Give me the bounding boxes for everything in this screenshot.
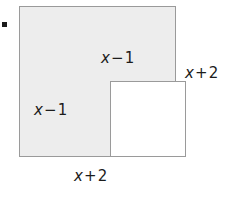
- inner-square: [110, 81, 186, 157]
- label-outer-right-operator: +: [194, 64, 209, 82]
- label-outer-right-variable: x: [185, 64, 194, 82]
- label-inner-left-operator: −: [43, 101, 58, 119]
- geometry-figure: x−1 x−1 x+2 x+2: [0, 0, 237, 197]
- label-outer-square-bottom: x+2: [74, 169, 108, 184]
- label-inner-top-number: 1: [125, 49, 135, 67]
- label-outer-bottom-operator: +: [83, 167, 98, 185]
- label-inner-left-variable: x: [34, 101, 43, 119]
- outer-square: [19, 6, 176, 157]
- label-inner-square-left: x−1: [34, 103, 68, 118]
- label-inner-square-top: x−1: [101, 51, 135, 66]
- label-inner-top-variable: x: [101, 49, 110, 67]
- item-marker-icon: [2, 22, 7, 27]
- label-inner-left-number: 1: [58, 101, 68, 119]
- label-outer-bottom-number: 2: [98, 167, 108, 185]
- label-outer-bottom-variable: x: [74, 167, 83, 185]
- label-outer-right-number: 2: [209, 64, 219, 82]
- label-inner-top-operator: −: [110, 49, 125, 67]
- label-outer-square-right: x+2: [185, 66, 219, 81]
